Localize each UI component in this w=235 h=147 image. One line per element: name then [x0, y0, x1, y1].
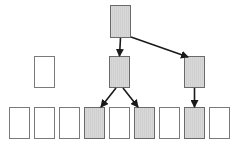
arrow-root-to-mid-center — [120, 38, 121, 56]
arrow-mid-center-to-leaf-3 — [101, 88, 116, 107]
arrow-root-to-mid-right — [131, 37, 188, 57]
edges-layer — [0, 0, 235, 147]
arrow-mid-center-to-leaf-5 — [123, 88, 138, 107]
